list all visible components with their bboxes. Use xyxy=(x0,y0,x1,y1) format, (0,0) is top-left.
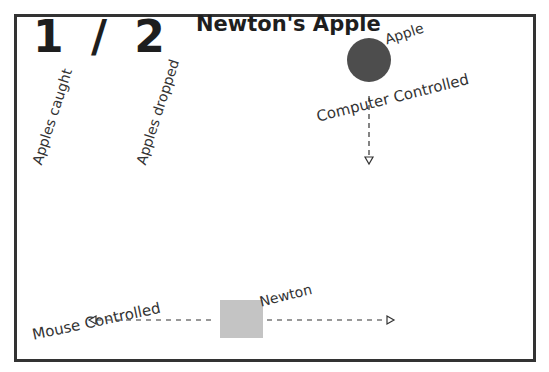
game-stage: 1 / 2 Newton's Apple Apples caught Apple… xyxy=(0,0,549,372)
game-frame[interactable] xyxy=(14,14,536,362)
score-display: 1 / 2 xyxy=(33,15,171,59)
apple-sprite xyxy=(347,38,391,82)
newton-sprite[interactable] xyxy=(220,300,263,338)
game-title: Newton's Apple xyxy=(196,14,381,35)
